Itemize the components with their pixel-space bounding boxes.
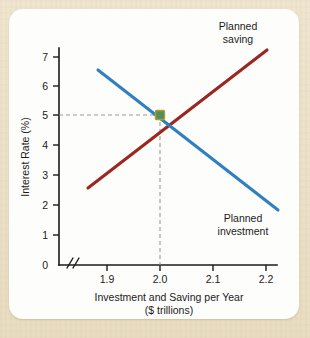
- y-tick-label-6: 6: [42, 80, 48, 92]
- y-axis-title: Interest Rate (%): [19, 117, 31, 196]
- y-tick-label-2: 2: [42, 199, 48, 211]
- planned-investment-label-line2: investment: [218, 225, 269, 237]
- x-tick-label-2-1: 2.1: [206, 273, 221, 285]
- y-axis-ticks: [53, 57, 59, 235]
- y-tick-label-3: 3: [42, 169, 48, 181]
- x-axis-ticks: [107, 265, 266, 271]
- y-tick-label-5: 5: [42, 109, 48, 121]
- y-tick-label-7: 7: [42, 51, 48, 63]
- equilibrium-guide-lines: [59, 115, 160, 265]
- x-tick-label-2-2: 2.2: [259, 273, 274, 285]
- figure-card: 7 6 5 4 3 2 1 0 1.9 2.0 2.1 2.2 Interest…: [9, 9, 299, 319]
- y-tick-label-1: 1: [42, 229, 48, 241]
- planned-saving-label-line1: Planned: [219, 20, 258, 32]
- planned-saving-annotation: Planned saving: [219, 20, 258, 45]
- x-axis-title-line2: ($ trillions): [145, 304, 193, 316]
- x-tick-label-1-9: 1.9: [100, 273, 115, 285]
- x-axis-tick-labels: 1.9 2.0 2.1 2.2: [100, 273, 274, 285]
- planned-saving-label-line2: saving: [223, 33, 254, 45]
- planned-investment-annotation: Planned investment: [218, 212, 269, 237]
- planned-saving-line: [88, 50, 267, 188]
- planned-investment-line: [98, 70, 278, 210]
- y-tick-label-4: 4: [42, 139, 48, 151]
- x-axis-break-icon: [67, 258, 79, 268]
- equilibrium-chart: 7 6 5 4 3 2 1 0 1.9 2.0 2.1 2.2 Interest…: [9, 9, 299, 319]
- equilibrium-point-marker: [156, 111, 165, 120]
- x-tick-label-2-0: 2.0: [153, 273, 168, 285]
- origin-label-zero: 0: [42, 259, 48, 271]
- x-axis-title-line1: Investment and Saving per Year: [95, 291, 244, 303]
- y-axis-tick-labels: 7 6 5 4 3 2 1 0: [42, 51, 48, 271]
- planned-investment-label-line1: Planned: [224, 212, 263, 224]
